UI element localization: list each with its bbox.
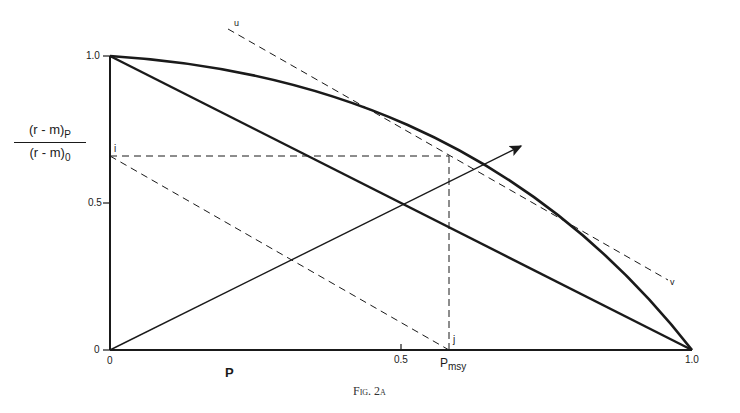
point-label-j: j xyxy=(453,334,455,345)
figure-caption: Fig. 2a xyxy=(353,384,386,399)
pmsy-label: Pmsy xyxy=(440,356,466,372)
y-tick-label-0: 0 xyxy=(94,344,100,355)
y-label-denominator: (r - m) xyxy=(30,145,65,160)
x-axis-label: P xyxy=(225,365,234,380)
x-tick-label-1: 1.0 xyxy=(685,354,699,365)
arrow-line xyxy=(110,146,521,350)
point-label-v: v xyxy=(670,277,675,287)
x-tick-label-05: 0.5 xyxy=(394,354,408,365)
x-tick-label-0: 0 xyxy=(107,355,113,366)
y-axis-label: (r - m)P (r - m)0 xyxy=(14,122,86,162)
y-label-denominator-sub: 0 xyxy=(65,151,71,162)
y-tick-label-1: 1.0 xyxy=(86,50,100,61)
point-label-i: i xyxy=(114,143,116,154)
dashed-line-ij xyxy=(110,156,449,350)
diagram-canvas xyxy=(0,0,740,413)
y-label-numerator-sub: P xyxy=(64,129,71,140)
y-tick-label-05: 0.5 xyxy=(88,197,102,208)
tangent-line-uv xyxy=(228,29,668,280)
y-label-numerator: (r - m) xyxy=(29,122,64,137)
point-label-u: u xyxy=(234,18,239,28)
